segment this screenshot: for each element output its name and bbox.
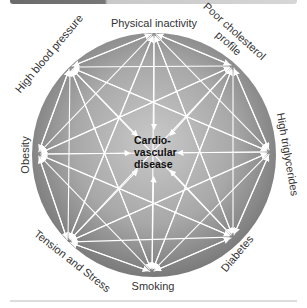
node-label-smoking: Smoking [132, 280, 175, 292]
svg-text:disease: disease [134, 158, 173, 170]
node-label-physical-inactivity: Physical inactivity [111, 17, 198, 29]
svg-text:Cardio-: Cardio- [134, 134, 171, 146]
node-label-obesity: Obesity [19, 136, 31, 174]
svg-text:vascular: vascular [134, 146, 177, 158]
center-label: Cardio- vascular disease [134, 134, 177, 170]
bottom-divider [10, 300, 297, 302]
node-label-high-triglycerides: High triglycerides [275, 112, 302, 198]
risk-factor-diagram: Cardio- vascular disease Physical inacti… [0, 0, 307, 308]
